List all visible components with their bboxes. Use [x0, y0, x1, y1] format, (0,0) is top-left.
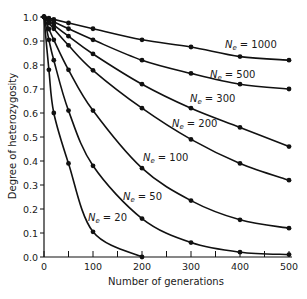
y-tick-label: 0.5 — [23, 132, 38, 143]
data-point — [66, 26, 71, 31]
data-point — [287, 144, 292, 149]
data-point — [287, 226, 292, 231]
data-point — [51, 58, 56, 63]
data-point — [189, 198, 194, 203]
heterozygosity-chart: 0.00.10.20.30.40.50.60.70.80.91.00100200… — [0, 0, 307, 299]
data-point — [238, 250, 243, 255]
data-point — [189, 71, 194, 76]
data-point — [140, 58, 145, 63]
series-label-2: Ne= 300 — [190, 93, 235, 106]
x-tick-label: 200 — [133, 261, 151, 272]
data-point — [51, 111, 56, 116]
series-label-3: Ne= 200 — [172, 118, 217, 131]
x-tick-label: 0 — [41, 261, 47, 272]
data-point — [91, 108, 96, 113]
data-point — [66, 34, 71, 39]
series-line-5 — [44, 17, 289, 255]
data-point — [47, 67, 52, 72]
series-label-6: Ne= 20 — [88, 212, 127, 225]
data-point — [66, 67, 71, 72]
y-tick-label: 0.1 — [23, 228, 38, 239]
data-point — [66, 43, 71, 48]
data-point — [287, 58, 292, 63]
series-line-2 — [44, 17, 289, 147]
y-axis-label: Degree of heterozygosity — [7, 73, 18, 200]
data-point — [238, 161, 243, 166]
data-point — [189, 106, 194, 111]
data-point — [238, 217, 243, 222]
data-point — [140, 216, 145, 221]
data-point — [287, 178, 292, 183]
data-point — [91, 26, 96, 31]
series-label-4: Ne= 100 — [143, 152, 188, 165]
data-point — [140, 255, 145, 260]
data-point — [91, 163, 96, 168]
y-tick-label: 0.3 — [23, 180, 38, 191]
data-point — [66, 161, 71, 166]
data-point — [51, 26, 56, 31]
y-tick-label: 0.9 — [23, 36, 38, 47]
data-point — [91, 68, 96, 73]
data-point — [51, 37, 56, 42]
data-point — [287, 87, 292, 92]
data-point — [238, 54, 243, 59]
data-point — [140, 166, 145, 171]
data-point — [140, 37, 145, 42]
data-point — [42, 15, 47, 20]
x-tick-label: 500 — [280, 261, 298, 272]
data-point — [189, 137, 194, 142]
data-point — [238, 82, 243, 87]
data-point — [189, 240, 194, 245]
data-point — [91, 37, 96, 42]
data-point — [189, 45, 194, 50]
series-label-5: Ne= 50 — [123, 191, 162, 204]
y-tick-label: 0.0 — [23, 252, 38, 263]
data-point — [66, 21, 71, 26]
x-tick-label: 100 — [84, 261, 102, 272]
x-axis-label: Number of generations — [108, 276, 224, 287]
series-label-0: Ne= 1000 — [225, 39, 277, 52]
data-point — [47, 37, 52, 42]
data-point — [140, 106, 145, 111]
data-point — [66, 108, 71, 113]
x-tick-label: 300 — [182, 261, 200, 272]
data-point — [140, 82, 145, 87]
y-tick-label: 0.8 — [23, 60, 38, 71]
series-labels: Ne= 1000Ne= 500Ne= 300Ne= 200Ne= 100Ne= … — [88, 39, 277, 225]
x-tick-label: 400 — [231, 261, 249, 272]
y-tick-label: 0.6 — [23, 108, 38, 119]
data-point — [238, 125, 243, 130]
data-point — [91, 229, 96, 234]
axes: 0.00.10.20.30.40.50.60.70.80.91.00100200… — [23, 12, 298, 273]
y-tick-label: 0.7 — [23, 84, 38, 95]
data-point — [287, 252, 292, 257]
y-tick-label: 0.2 — [23, 204, 38, 215]
data-point — [91, 52, 96, 57]
series-label-1: Ne= 500 — [210, 69, 255, 82]
curves — [42, 15, 292, 260]
y-tick-label: 1.0 — [23, 12, 38, 23]
y-tick-label: 0.4 — [23, 156, 38, 167]
